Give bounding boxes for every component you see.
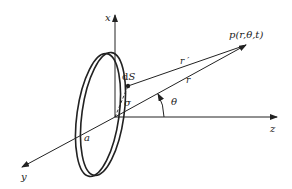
z-axis-label: z: [269, 123, 276, 134]
y-axis-label: y: [20, 171, 27, 182]
r-label: r: [186, 75, 191, 85]
x-axis-label: x: [105, 12, 111, 23]
theta-arc: [158, 94, 164, 117]
y-axis: [22, 117, 115, 167]
theta-label: θ: [171, 96, 177, 107]
field-point-label: p(r,θ,t): [229, 29, 263, 40]
sigma-label: σ: [124, 97, 132, 108]
circular-piston-diagram: x z y a σ dS r ′ r θ p(r,θ,t): [0, 0, 292, 189]
radius-label: a: [84, 132, 90, 143]
r-prime-label: r ′: [180, 56, 189, 66]
surface-element-label: dS: [122, 71, 135, 82]
disk: [69, 50, 133, 180]
